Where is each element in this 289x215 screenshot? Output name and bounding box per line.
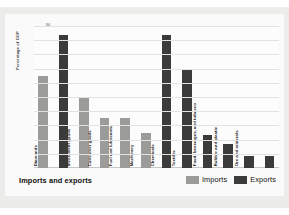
gridline (34, 111, 279, 112)
bar-exports-food-beverages-and-tobacco[interactable] (223, 144, 233, 168)
gridline (34, 83, 279, 84)
legend-item-exports: Exports (234, 175, 276, 184)
gridline (34, 69, 279, 70)
legend-item-imports: Imports (186, 175, 227, 184)
bar-exports-ore-and-minerals[interactable] (265, 156, 275, 168)
y-axis-title: Percentage of GDP (15, 0, 20, 70)
x-axis-category-label: Machinery (130, 144, 134, 166)
x-axis-category-label: Chemicals (151, 144, 155, 166)
legend-label-imports: Imports (202, 175, 227, 184)
gridline (34, 54, 279, 55)
legend-swatch-imports-icon (186, 176, 199, 184)
x-axis-category-label: Consumer goods (88, 130, 92, 166)
gridline (34, 26, 279, 27)
bar-exports-rubber-and-plastic[interactable] (244, 156, 254, 168)
x-axis-category-label: Fuel and lubricants (109, 126, 113, 166)
x-axis-category-label: Ore and minerals (235, 130, 239, 166)
screenshot-root: Percentage of GDP 036912151821242730 Dia… (0, 0, 289, 215)
chart-figure-card: Percentage of GDP 036912151821242730 Dia… (5, 14, 284, 196)
x-axis-category-label: Food, beverages, and tobacco (193, 103, 197, 166)
plot-area: DiamondsInvestment goodsConsumer goodsFu… (34, 26, 279, 168)
chart-legend: Imports Exports (186, 175, 276, 184)
gridline (34, 125, 279, 126)
gridline (34, 154, 279, 155)
chart-footer: Imports and exports Imports Exports (19, 174, 276, 188)
legend-swatch-exports-icon (234, 176, 247, 184)
x-axis-category-label: Investment goods (67, 128, 71, 166)
x-axis-category-label: Textiles (172, 150, 176, 166)
x-axis-category-label: Diamonds (34, 145, 38, 166)
gridline (34, 97, 279, 98)
chart-title: Imports and exports (19, 176, 92, 185)
legend-label-exports: Exports (250, 175, 276, 184)
gridline (34, 140, 279, 141)
plot-wrapper: Percentage of GDP 036912151821242730 Dia… (29, 26, 279, 182)
gridline (34, 40, 279, 41)
x-axis-category-label: Rubber and plastic (214, 126, 218, 166)
